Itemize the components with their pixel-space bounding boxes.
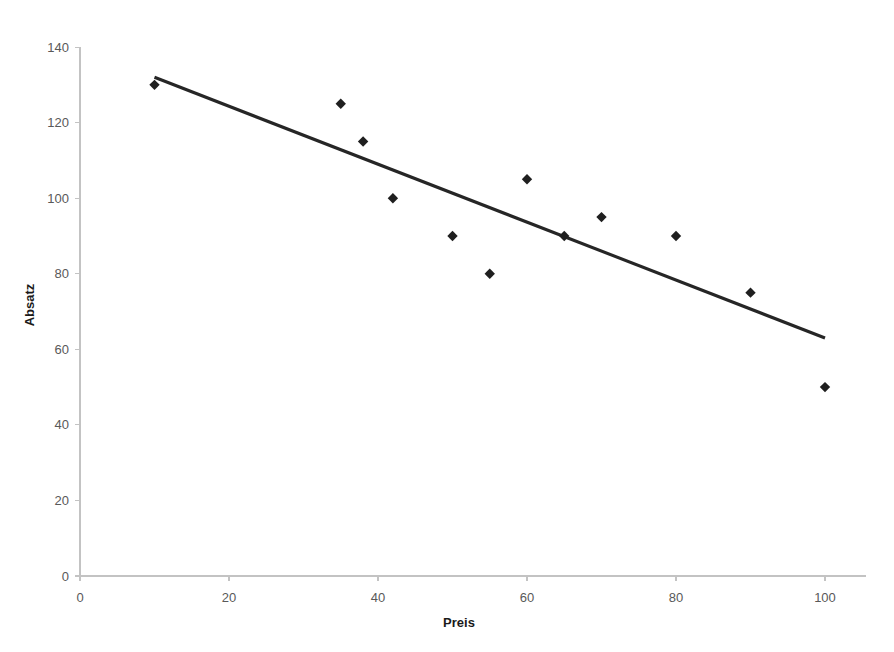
x-tick-label: 0 bbox=[76, 590, 83, 605]
chart-background bbox=[0, 0, 894, 652]
y-tick-label: 60 bbox=[55, 342, 69, 357]
x-tick-label: 80 bbox=[669, 590, 683, 605]
x-tick-label: 20 bbox=[222, 590, 236, 605]
chart-canvas: 020406080100120140 020406080100 Absatz P… bbox=[0, 0, 894, 652]
x-axis-title: Preis bbox=[443, 615, 475, 630]
y-tick-label: 120 bbox=[47, 115, 69, 130]
y-axis-title: Absatz bbox=[22, 283, 37, 326]
y-tick-label: 20 bbox=[55, 493, 69, 508]
y-tick-label: 0 bbox=[62, 569, 69, 584]
y-tick-label: 40 bbox=[55, 417, 69, 432]
x-tick-label: 40 bbox=[371, 590, 385, 605]
y-tick-label: 140 bbox=[47, 40, 69, 55]
x-tick-label: 100 bbox=[814, 590, 836, 605]
x-tick-label: 60 bbox=[520, 590, 534, 605]
scatter-chart: 020406080100120140 020406080100 Absatz P… bbox=[0, 0, 894, 652]
y-tick-label: 100 bbox=[47, 191, 69, 206]
y-tick-label: 80 bbox=[55, 266, 69, 281]
